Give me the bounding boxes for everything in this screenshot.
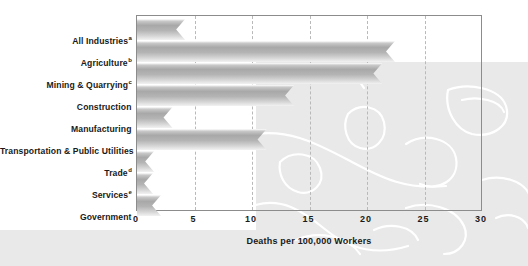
category-label-manufacturing: Manufacturing xyxy=(0,121,132,134)
bar-trade xyxy=(137,151,154,172)
xtick-5: 5 xyxy=(190,214,196,224)
category-label-agriculture: Agricultureb xyxy=(0,55,132,68)
bar-mining-quarrying xyxy=(137,63,382,84)
xtick-20: 20 xyxy=(360,214,372,224)
x-axis-title: Deaths per 100,000 Workers xyxy=(136,236,482,246)
xtick-30: 30 xyxy=(475,214,487,224)
xtick-15: 15 xyxy=(302,214,314,224)
gridline-25 xyxy=(425,16,426,210)
plot-area xyxy=(136,15,482,211)
xtick-25: 25 xyxy=(417,214,429,224)
bar-agriculture xyxy=(137,41,395,62)
bar-all-industries xyxy=(137,19,185,40)
category-label-government: Government xyxy=(0,209,132,222)
category-label-trade: Traded xyxy=(0,165,132,178)
bar-construction xyxy=(137,85,294,106)
bar-chart-figure: All Industriesa Agricultureb Mining & Qu… xyxy=(0,0,528,266)
bar-services xyxy=(137,173,153,194)
bar-government xyxy=(137,195,161,216)
category-label-all-industries: All Industriesa xyxy=(0,33,132,46)
category-label-services: Servicese xyxy=(0,187,132,200)
category-label-transportation-public-utilities: Transportation & Public Utilities xyxy=(0,143,132,156)
category-label-construction: Construction xyxy=(0,99,132,112)
xtick-0: 0 xyxy=(133,214,139,224)
category-axis-labels: All Industriesa Agricultureb Mining & Qu… xyxy=(0,15,132,211)
plot-inner xyxy=(137,16,481,210)
category-label-mining-quarrying: Mining & Quarryingc xyxy=(0,77,132,90)
xtick-10: 10 xyxy=(245,214,257,224)
bar-transportation-public-utilities xyxy=(137,129,267,150)
bar-manufacturing xyxy=(137,107,173,128)
